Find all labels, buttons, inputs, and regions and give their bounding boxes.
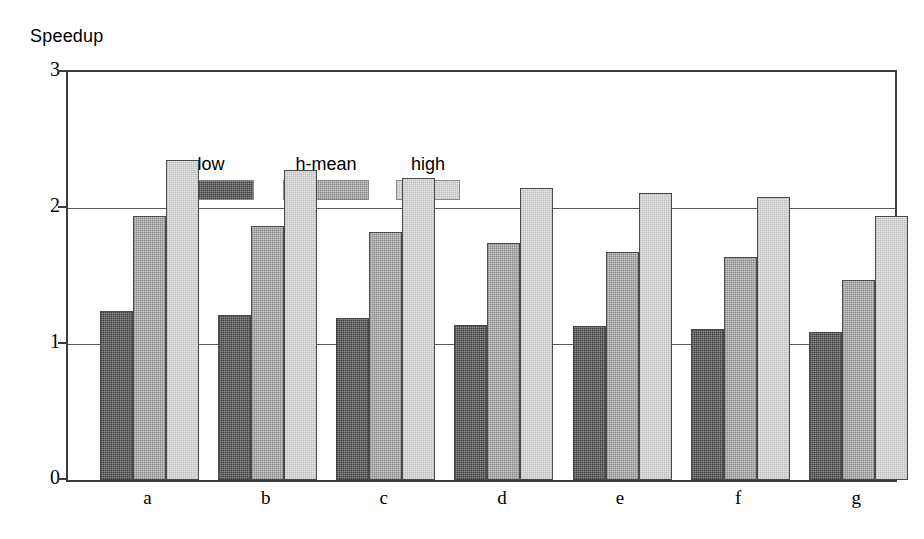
plot-inner [68,72,895,480]
bar-a-high [166,160,199,480]
y-tick-label-0: 0 [26,467,60,487]
bar-g-low [809,332,842,480]
bar-b-h-mean [251,226,284,480]
y-tick-mark-0 [58,478,66,480]
bar-g-high [875,216,908,480]
bar-chart-figure: Speedup 0123 lowh-meanhigh abcdefg [0,0,924,539]
y-tick-label-1: 1 [26,331,60,351]
bar-c-h-mean [369,232,402,480]
x-tick-label-b: b [246,487,286,509]
x-tick-label-f: f [718,487,758,509]
y-tick-label-3: 3 [26,59,60,79]
bar-c-low [336,318,369,480]
bar-e-h-mean [606,252,639,480]
y-tick-label-2: 2 [26,195,60,215]
bar-d-h-mean [487,243,520,480]
bar-d-high [520,188,553,480]
x-tick-label-d: d [482,487,522,509]
bar-g-h-mean [842,280,875,480]
bar-d-low [454,325,487,480]
bar-f-h-mean [724,257,757,480]
y-axis-tick-labels: 0123 [20,0,60,539]
x-tick-label-g: g [836,487,876,509]
x-tick-label-a: a [128,487,168,509]
bar-c-high [402,178,435,480]
y-tick-mark-2 [58,206,66,208]
x-tick-label-c: c [364,487,404,509]
bar-b-low [218,315,251,480]
bar-e-high [639,193,672,480]
plot-area: lowh-meanhigh [66,70,897,482]
bar-a-h-mean [133,216,166,480]
bar-e-low [573,326,606,480]
legend-label-high: high [396,154,460,175]
bar-f-low [691,329,724,480]
x-tick-label-e: e [600,487,640,509]
y-tick-mark-3 [58,70,66,72]
bar-a-low [100,311,133,480]
bar-b-high [284,170,317,480]
bar-f-high [757,197,790,480]
y-tick-mark-1 [58,342,66,344]
